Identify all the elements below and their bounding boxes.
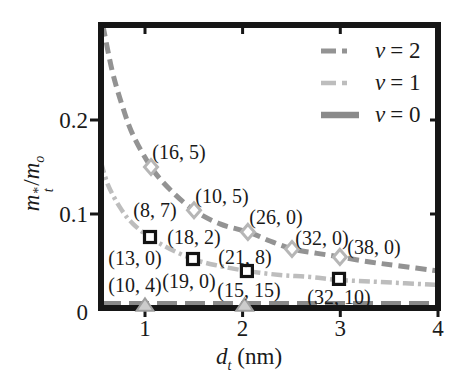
- chirality-label: (10, 5): [195, 186, 248, 206]
- chirality-label: (26, 0): [249, 207, 302, 227]
- legend-sample-2: [319, 110, 363, 120]
- chirality-label: (8, 7): [133, 200, 176, 220]
- legend-label-nu1: ν= 1: [375, 70, 420, 96]
- x-tick-label-3: 4: [432, 317, 444, 340]
- chirality-label: (32, 10): [307, 287, 370, 307]
- legend-item-nu1: ν= 1: [319, 71, 420, 94]
- legend-item-nu2: ν= 2: [319, 39, 420, 62]
- chirality-label: (18, 2): [167, 227, 220, 247]
- x-tick-label-0: 1: [139, 317, 151, 340]
- data-point-square: [188, 254, 199, 265]
- chirality-label: (10, 4): [108, 275, 161, 295]
- chirality-label: (38, 0): [347, 237, 400, 257]
- legend-label-nu0: ν= 0: [375, 102, 420, 128]
- chirality-label: (19, 0): [162, 271, 215, 291]
- x-tick-label-2: 3: [335, 317, 347, 340]
- chirality-label: (21, 8): [218, 247, 271, 267]
- legend: ν= 2 ν= 1 ν= 0: [319, 39, 420, 126]
- chirality-label: (15, 15): [217, 280, 280, 300]
- chirality-label: (16, 5): [152, 142, 205, 162]
- legend-item-nu0: ν= 0: [319, 103, 420, 126]
- y-tick-label-0: 0: [0, 301, 88, 324]
- legend-label-nu2: ν= 2: [375, 38, 420, 64]
- chirality-label: (13, 0): [108, 248, 161, 268]
- x-axis-label: dt(nm): [179, 344, 319, 374]
- data-point-diamond: [333, 249, 346, 264]
- data-point-square: [145, 232, 156, 243]
- legend-sample-0: [319, 46, 363, 56]
- ylabel-supsub: *t: [34, 187, 54, 194]
- x-tick-label-1: 2: [237, 317, 249, 340]
- chirality-label: (32, 0): [295, 228, 348, 248]
- y-axis-label: m*t/mo: [19, 124, 54, 244]
- effective-mass-vs-diameter-chart: 0 0.1 0.2 1 2 3 4 m*t/mo dt(nm) ν= 2 ν= …: [0, 0, 467, 388]
- data-point-square: [334, 273, 345, 284]
- legend-sample-1: [319, 78, 363, 88]
